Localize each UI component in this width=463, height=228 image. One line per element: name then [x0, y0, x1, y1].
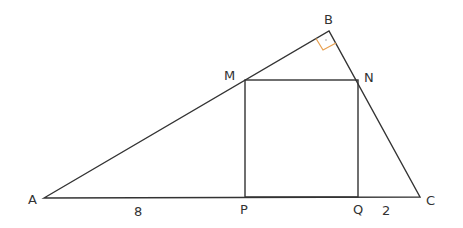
- measure-ap: 8: [134, 204, 142, 219]
- label-q: Q: [353, 202, 363, 217]
- label-a: A: [28, 192, 37, 207]
- geometry-diagram: B M N A C P Q 8 2: [0, 0, 463, 228]
- label-c: C: [426, 193, 435, 208]
- measure-qc: 2: [382, 203, 390, 218]
- square-mnqp: [245, 80, 358, 197]
- label-m: M: [224, 68, 235, 83]
- right-angle-dot: [325, 39, 326, 40]
- label-b: B: [324, 12, 333, 27]
- label-n: N: [364, 70, 374, 85]
- triangle-abc: [44, 31, 420, 198]
- label-p: P: [240, 202, 248, 217]
